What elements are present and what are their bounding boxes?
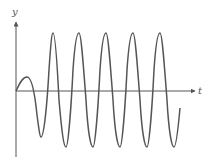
t-axis-label: t	[198, 85, 203, 96]
oscillation-diagram: y t	[0, 0, 209, 163]
oscillation-curve	[16, 33, 180, 147]
y-axis-label: y	[11, 6, 18, 17]
